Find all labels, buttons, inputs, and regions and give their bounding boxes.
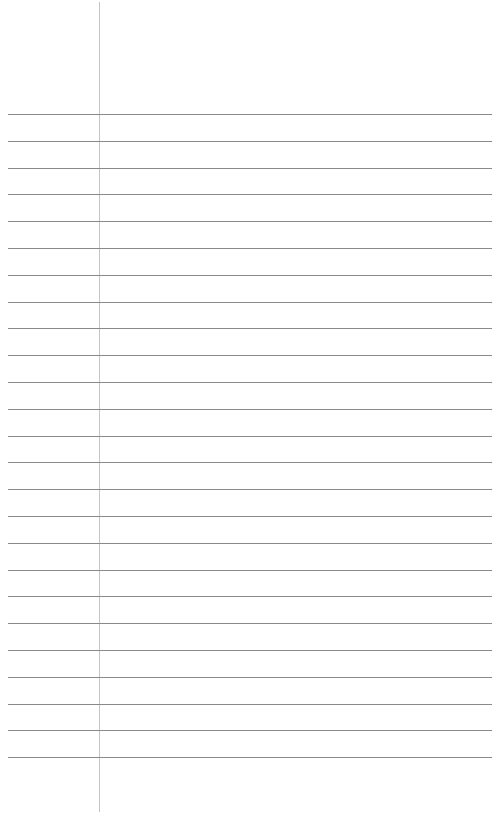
ruled-line (8, 570, 492, 571)
ruled-line (8, 677, 492, 678)
ruled-line (8, 328, 492, 329)
ruled-line (8, 757, 492, 758)
ruled-line (8, 141, 492, 142)
ruled-line (8, 248, 492, 249)
ruled-line (8, 730, 492, 731)
ruled-line (8, 516, 492, 517)
ruled-line (8, 543, 492, 544)
ruled-line (8, 704, 492, 705)
ruled-line (8, 650, 492, 651)
ruled-line (8, 114, 492, 115)
ruled-line (8, 623, 492, 624)
ruled-line (8, 409, 492, 410)
ruled-line (8, 168, 492, 169)
ruled-line (8, 355, 492, 356)
ruled-line (8, 436, 492, 437)
margin-line (99, 2, 100, 812)
ruled-line (8, 194, 492, 195)
ruled-line (8, 302, 492, 303)
ruled-line (8, 275, 492, 276)
ruled-line (8, 489, 492, 490)
ruled-line (8, 382, 492, 383)
ruled-line (8, 596, 492, 597)
ruled-line (8, 221, 492, 222)
ruled-line (8, 462, 492, 463)
